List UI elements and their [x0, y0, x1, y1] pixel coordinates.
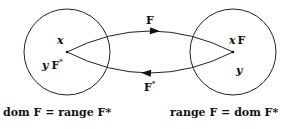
- forward-label: F: [146, 14, 154, 27]
- range-xF-label: xF: [228, 34, 246, 47]
- left-caption: dom F = range F*: [3, 106, 111, 119]
- domain-x-label: x: [56, 34, 64, 47]
- domain-point: [66, 51, 69, 54]
- backward-arc: [67, 52, 233, 73]
- domain-yF-label: yF*: [41, 58, 63, 72]
- range-y-label: y: [235, 64, 244, 77]
- backward-arrowhead-icon: [141, 69, 151, 77]
- right-caption: range F = dom F*: [170, 106, 278, 119]
- range-point: [232, 51, 235, 54]
- relation-diagram: F F* x yF* xF y dom F = range F* range F…: [0, 0, 298, 129]
- backward-label: F*: [144, 79, 156, 94]
- forward-arrowhead-icon: [150, 27, 160, 35]
- forward-arc: [67, 31, 233, 52]
